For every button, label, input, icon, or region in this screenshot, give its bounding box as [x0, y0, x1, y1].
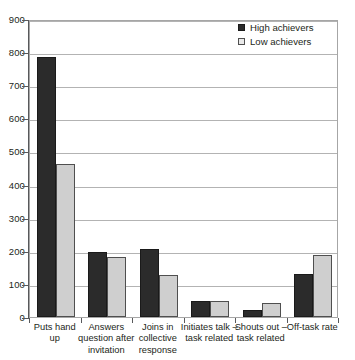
bar-low-achievers [313, 255, 332, 317]
bar-high-achievers [191, 301, 210, 317]
y-axis-tickmark [22, 20, 29, 21]
y-axis-tickmark [22, 53, 29, 54]
bar-group [133, 21, 185, 317]
y-axis-tickmark [22, 86, 29, 87]
legend-item-high-achievers: High achievers [238, 22, 313, 33]
bar-high-achievers [243, 310, 262, 317]
bar-low-achievers [56, 164, 75, 317]
bar-low-achievers [262, 303, 281, 317]
y-axis-tickmark [22, 152, 29, 153]
x-axis-category-label-line: response [126, 345, 190, 356]
legend-label-high-achievers: High achievers [250, 22, 313, 33]
x-axis-category-label: Off-task rate [281, 322, 345, 333]
legend-swatch-high-achievers [238, 24, 245, 31]
bar-group [236, 21, 288, 317]
bar-high-achievers [37, 57, 56, 317]
x-axis-category-label-line: task related [229, 333, 293, 344]
y-axis-tickmark [22, 119, 29, 120]
bar-group [288, 21, 340, 317]
legend-label-low-achievers: Low achievers [250, 36, 311, 47]
bar-group [82, 21, 134, 317]
y-axis-tickmark [22, 318, 29, 319]
y-axis-tickmark [22, 285, 29, 286]
bars-layer [30, 21, 337, 317]
x-axis-labels: Puts handupAnswersquestion afterinvitati… [29, 322, 338, 360]
bar-high-achievers [140, 249, 159, 317]
legend-swatch-low-achievers [238, 38, 245, 45]
x-axis-category-label-line: Off-task rate [281, 322, 345, 333]
y-axis-tickmark [22, 219, 29, 220]
bar-low-achievers [159, 275, 178, 317]
chart-legend: High achievers Low achievers [236, 18, 315, 49]
bar-group [185, 21, 237, 317]
bar-low-achievers [107, 257, 126, 317]
bar-high-achievers [88, 252, 107, 317]
legend-item-low-achievers: Low achievers [238, 36, 313, 47]
bar-high-achievers [294, 274, 313, 317]
plot-area [29, 20, 338, 318]
bar-group [30, 21, 82, 317]
bar-chart: 0100200300400500600700800900 Puts handup… [0, 0, 355, 360]
bar-low-achievers [210, 301, 229, 317]
y-axis-tickmark [22, 252, 29, 253]
y-axis-tickmark [22, 186, 29, 187]
